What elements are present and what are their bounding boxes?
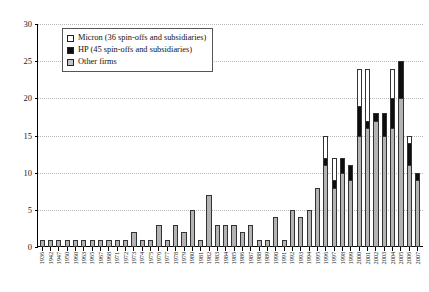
bar-segment <box>373 121 378 247</box>
bar-column <box>405 24 413 247</box>
x-tick-label-1963: 1963 <box>81 252 88 264</box>
bar-column <box>288 24 296 247</box>
x-label-slot: 1995 <box>313 252 321 292</box>
x-tick-label-2003: 2003 <box>381 252 388 264</box>
x-tick-label-1990: 1990 <box>273 252 280 264</box>
bar-column <box>222 24 230 247</box>
x-tick-mark <box>100 247 101 251</box>
legend-swatch-micron-icon <box>67 35 74 42</box>
bar-segment <box>115 240 120 247</box>
x-label-slot: 1965 <box>88 252 96 292</box>
bar-column <box>213 24 221 247</box>
bar-segment <box>290 210 295 247</box>
bar-segment <box>98 240 103 247</box>
x-tick-label-2004: 2004 <box>389 252 396 264</box>
x-tick-label-1942: 1942 <box>47 252 54 264</box>
bar-1988 <box>257 240 262 247</box>
x-label-slot: 1971 <box>113 252 121 292</box>
bar-2007 <box>415 173 420 247</box>
bar-1936 <box>40 240 45 247</box>
bar-segment <box>398 98 403 247</box>
x-label-slot: 1975 <box>146 252 154 292</box>
bar-2006 <box>407 136 412 247</box>
bar-1971 <box>115 240 120 247</box>
x-tick-label-1997: 1997 <box>331 252 338 264</box>
bar-column <box>372 24 380 247</box>
bar-segment <box>323 158 328 165</box>
bar-segment <box>40 240 45 247</box>
x-label-slot: 1974 <box>138 252 146 292</box>
bar-1997 <box>332 158 337 247</box>
bar-segment <box>382 136 387 248</box>
x-tick-mark <box>292 247 293 251</box>
x-label-slot: 1992 <box>288 252 296 292</box>
y-tick-label-20: 20 <box>8 94 32 103</box>
x-label-slot: 1998 <box>338 252 346 292</box>
bar-segment <box>357 106 362 136</box>
x-label-slot: 1967 <box>96 252 104 292</box>
bar-segment <box>173 225 178 247</box>
bar-segment <box>340 158 345 173</box>
x-tick-label-1992: 1992 <box>289 252 296 264</box>
bar-segment <box>415 180 420 247</box>
x-tick-label-1999: 1999 <box>348 252 355 264</box>
x-tick-mark <box>192 247 193 251</box>
x-label-slot: 1984 <box>222 252 230 292</box>
bar-1973 <box>131 232 136 247</box>
bar-segment <box>223 225 228 247</box>
bar-column <box>397 24 405 247</box>
bar-column <box>305 24 313 247</box>
bar-1989 <box>265 240 270 247</box>
bar-segment <box>90 240 95 247</box>
x-tick-mark <box>417 247 418 251</box>
x-tick-mark <box>158 247 159 251</box>
bar-1987 <box>248 225 253 247</box>
x-tick-label-2005: 2005 <box>398 252 405 264</box>
x-tick-label-1972: 1972 <box>122 252 129 264</box>
bar-segment <box>282 240 287 247</box>
x-tick-label-2006: 2006 <box>406 252 413 264</box>
bar-segment <box>407 136 412 143</box>
bar-segment <box>165 240 170 247</box>
bar-1990 <box>273 217 278 247</box>
x-label-slot: 1990 <box>272 252 280 292</box>
x-tick-mark <box>275 247 276 251</box>
x-label-slot: 2001 <box>363 252 371 292</box>
bar-segment <box>390 69 395 99</box>
bar-1984 <box>223 225 228 247</box>
bar-column <box>413 24 421 247</box>
bar-segment <box>332 158 337 180</box>
bar-segment <box>332 180 337 187</box>
bar-column <box>280 24 288 247</box>
bar-segment <box>407 165 412 247</box>
x-tick-mark <box>309 247 310 251</box>
x-tick-mark <box>175 247 176 251</box>
bar-segment <box>315 188 320 247</box>
x-tick-mark <box>234 247 235 251</box>
y-tick-label-25: 25 <box>8 57 32 66</box>
bar-1967 <box>98 240 103 247</box>
bar-segment <box>106 240 111 247</box>
bar-segment <box>373 113 378 120</box>
x-tick-mark <box>250 247 251 251</box>
bar-column <box>363 24 371 247</box>
legend-label-hp: HP (45 spin-offs and subsidiaries) <box>78 46 192 54</box>
x-tick-label-1960: 1960 <box>72 252 79 264</box>
x-tick-label-2001: 2001 <box>364 252 371 264</box>
bar-segment <box>65 240 70 247</box>
bar-column <box>38 24 46 247</box>
bar-segment <box>73 240 78 247</box>
x-label-slot: 1942 <box>46 252 54 292</box>
bar-segment <box>206 195 211 247</box>
bar-1995 <box>315 188 320 247</box>
bar-1986 <box>240 232 245 247</box>
y-tick-label-5: 5 <box>8 206 32 215</box>
x-label-slot: 1994 <box>305 252 313 292</box>
x-tick-mark <box>50 247 51 251</box>
x-tick-label-1974: 1974 <box>139 252 146 264</box>
y-tick-label-10: 10 <box>8 169 32 178</box>
bar-segment <box>323 136 328 158</box>
x-tick-mark <box>359 247 360 251</box>
x-tick-label-1996: 1996 <box>323 252 330 264</box>
bar-1982 <box>206 195 211 247</box>
